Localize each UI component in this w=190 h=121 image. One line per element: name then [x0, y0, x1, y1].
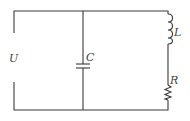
resistor-label: R [169, 74, 178, 87]
resistor-symbol [165, 85, 171, 100]
circuit-diagram: U C L R [0, 0, 190, 121]
capacitor-symbol [76, 64, 90, 68]
inductor-label: L [173, 26, 181, 39]
capacitor-label: C [86, 51, 95, 64]
source-label: U [9, 52, 19, 65]
top-wire [14, 11, 168, 33]
bottom-wire [14, 82, 168, 110]
inductor-symbol [168, 14, 173, 44]
